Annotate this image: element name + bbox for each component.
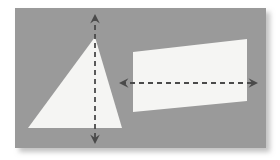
geometry-diagram [0, 0, 280, 160]
figure-container [0, 0, 280, 160]
